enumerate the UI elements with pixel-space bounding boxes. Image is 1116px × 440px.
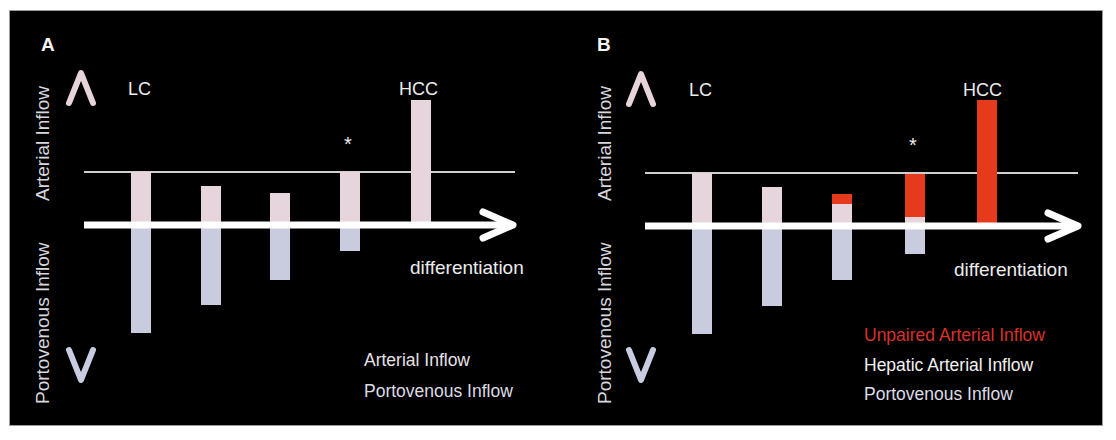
legend-item-hepatic-arterial: Hepatic Arterial Inflow <box>864 357 1033 375</box>
legend-item-unpaired-arterial: Unpaired Arterial Inflow <box>864 327 1045 345</box>
end-label: HCC <box>963 81 1002 99</box>
asterisk-marker: * <box>909 135 917 155</box>
horizontal-arrow-icon <box>645 213 1078 239</box>
x-axis-label: differentiation <box>954 260 1068 279</box>
legend-item-portovenous: Portovenous Inflow <box>864 386 1013 404</box>
start-label: LC <box>689 81 712 99</box>
